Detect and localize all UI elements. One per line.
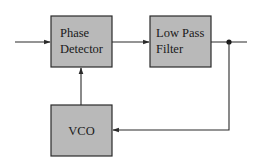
low-pass-filter-label-line2: Filter bbox=[156, 42, 184, 56]
low-pass-filter-label-line1: Low Pass bbox=[156, 26, 204, 40]
phase-detector-label-line1: Phase bbox=[60, 26, 90, 40]
phase-detector-label-line2: Detector bbox=[60, 42, 104, 56]
phase-detector-block: Phase Detector bbox=[51, 16, 112, 67]
low-pass-filter-block: Low Pass Filter bbox=[150, 16, 211, 67]
vco-label: VCO bbox=[68, 124, 94, 138]
pll-block-diagram: Phase Detector Low Pass Filter VCO bbox=[0, 0, 261, 162]
vco-block: VCO bbox=[51, 105, 112, 156]
